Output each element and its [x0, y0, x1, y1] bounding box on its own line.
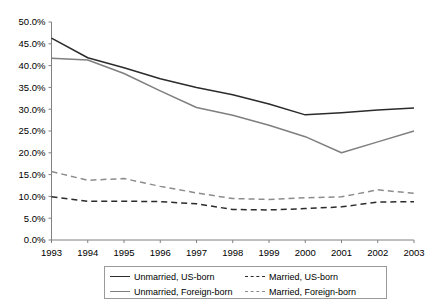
y-axis-tick-label: 40.0% — [19, 60, 46, 71]
x-axis-tick-label: 2001 — [331, 247, 352, 258]
legend-item-married-us-born: Married, US-born — [245, 272, 393, 282]
legend-line-icon-married-us-born — [245, 272, 265, 281]
legend-label-unmarried-us-born: Unmarried, US-born — [134, 272, 215, 282]
x-axis-tick-label: 1994 — [77, 247, 98, 258]
chart-legend: Unmarried, US-born Married, US-born Unma… — [104, 266, 387, 299]
y-axis-tick-label: 25.0% — [19, 125, 46, 136]
y-axis-tick-label: 5.0% — [24, 213, 46, 224]
legend-item-unmarried-foreign-born: Unmarried, Foreign-born — [110, 287, 245, 297]
legend-line-icon-unmarried-foreign-born — [110, 287, 130, 296]
x-axis-tick-label: 1995 — [113, 247, 134, 258]
legend-line-icon-married-foreign-born — [245, 287, 265, 296]
series-line-unmarried-us-born — [52, 38, 415, 115]
x-axis-tick-label: 1999 — [258, 247, 279, 258]
legend-item-married-foreign-born: Married, Foreign-born — [245, 287, 393, 297]
series-line-unmarried-foreign-born — [52, 58, 415, 153]
legend-item-unmarried-us-born: Unmarried, US-born — [110, 272, 245, 282]
y-axis-tick-label: 20.0% — [19, 147, 46, 158]
series-line-married-foreign-born — [52, 172, 415, 200]
x-axis-tick-label: 2003 — [403, 247, 424, 258]
legend-line-icon-unmarried-us-born — [110, 272, 130, 281]
x-axis-tick-label: 2000 — [295, 247, 316, 258]
y-axis-tick-label: 30.0% — [19, 104, 46, 115]
legend-label-married-foreign-born: Married, Foreign-born — [269, 287, 356, 297]
y-axis-tick-label: 0.0% — [24, 234, 46, 245]
line-chart: 0.0%5.0%10.0%15.0%20.0%25.0%30.0%35.0%40… — [0, 0, 432, 307]
legend-grid: Unmarried, US-born Married, US-born Unma… — [110, 269, 381, 299]
y-axis-tick-label: 35.0% — [19, 82, 46, 93]
y-axis-tick-label: 10.0% — [19, 191, 46, 202]
y-axis-tick-label: 15.0% — [19, 169, 46, 180]
x-axis-tick-label: 1993 — [41, 247, 62, 258]
y-axis-tick-label: 45.0% — [19, 38, 46, 49]
x-axis-tick-label: 1998 — [222, 247, 243, 258]
x-axis-tick-label: 2002 — [367, 247, 388, 258]
x-axis-tick-label: 1997 — [186, 247, 207, 258]
chart-plot-area: 0.0%5.0%10.0%15.0%20.0%25.0%30.0%35.0%40… — [0, 0, 432, 307]
legend-label-married-us-born: Married, US-born — [269, 272, 338, 282]
y-axis-tick-label: 50.0% — [19, 16, 46, 27]
legend-label-unmarried-foreign-born: Unmarried, Foreign-born — [134, 287, 233, 297]
x-axis-tick-label: 1996 — [150, 247, 171, 258]
